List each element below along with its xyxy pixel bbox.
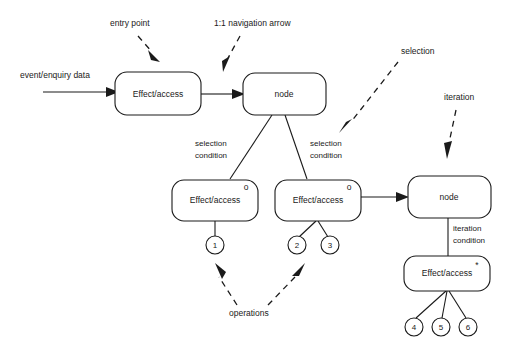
annotation-navigation-arrow: 1:1 navigation arrow (214, 18, 291, 28)
selection-condition-right-line2: condition (310, 151, 342, 160)
box-effect-access-2[interactable]: Effect/access o (172, 180, 258, 221)
entry-point-pointer (138, 36, 160, 62)
input-flow-arrow (43, 87, 119, 97)
box-node-2[interactable]: node (408, 176, 491, 218)
operation-circle-1[interactable]: 1 (206, 236, 224, 254)
optional-marker-icon: o (244, 182, 249, 192)
box-label: Effect/access (422, 268, 472, 278)
selection-branch-right (285, 115, 307, 179)
operations-pointer-left (215, 263, 237, 305)
selection-condition-left-line2: condition (195, 151, 227, 160)
box-node-1[interactable]: node (243, 73, 326, 115)
iteration-condition-line1: iteration (453, 224, 481, 233)
annotation-operations: operations (229, 308, 269, 318)
annotation-iteration: iteration (444, 92, 475, 102)
operation-connector-5 (442, 291, 447, 318)
operation-connector-6 (449, 291, 466, 318)
operation-circle-6[interactable]: 6 (459, 318, 477, 336)
operation-circle-3[interactable]: 3 (321, 236, 339, 254)
operation-connector-2 (299, 221, 316, 237)
operation-circle-5[interactable]: 5 (432, 318, 450, 336)
selection-condition-right-line1: selection (310, 139, 342, 148)
operation-circle-label: 5 (439, 323, 444, 332)
operation-circle-4[interactable]: 4 (405, 318, 423, 336)
operation-circle-label: 2 (295, 241, 300, 250)
box-effect-access-4[interactable]: Effect/access * (404, 256, 490, 291)
iteration-condition-line2: condition (453, 236, 485, 245)
annotation-entry-point: entry point (110, 18, 150, 28)
box-label: Effect/access (293, 195, 343, 205)
selection-pointer (339, 62, 398, 133)
box-effect-access-1[interactable]: Effect/access (115, 72, 201, 115)
optional-marker-icon: o (347, 182, 352, 192)
box-label: node (275, 89, 294, 99)
selection-branch-left (230, 115, 272, 179)
operation-connector-3 (318, 221, 328, 237)
navigation-arrow-effect3-to-node2 (361, 192, 409, 202)
navigation-arrow-effect1-to-node1 (201, 89, 245, 99)
diagram-canvas: Effect/access node Effect/access o Effec… (0, 0, 512, 352)
box-label: Effect/access (190, 195, 240, 205)
selection-condition-left-line1: selection (195, 139, 227, 148)
box-label: node (440, 192, 459, 202)
effect-correspondence-diagram: Effect/access node Effect/access o Effec… (0, 0, 512, 352)
navigation-arrow-pointer (222, 36, 240, 72)
operation-circle-label: 3 (328, 241, 333, 250)
operation-circle-label: 1 (213, 241, 218, 250)
box-label: Effect/access (133, 89, 183, 99)
operation-circle-label: 4 (412, 323, 417, 332)
annotation-selection: selection (401, 46, 435, 56)
input-flow-label: event/enquiry data (20, 70, 90, 80)
operation-circle-2[interactable]: 2 (288, 236, 306, 254)
operations-pointer-right (268, 263, 305, 305)
operation-connector-4 (416, 291, 446, 318)
operation-circle-label: 6 (466, 323, 471, 332)
box-effect-access-3[interactable]: Effect/access o (275, 180, 361, 221)
iteration-pointer (444, 110, 456, 159)
